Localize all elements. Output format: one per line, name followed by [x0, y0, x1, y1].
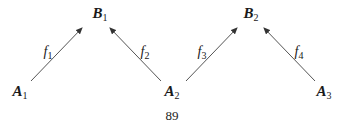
arrow-A2-to-B2 [186, 28, 237, 81]
arrow-A3-to-B2 [264, 28, 315, 81]
arrow-A1-to-B1 [31, 28, 82, 81]
edge-label-f1: f1 [44, 44, 53, 61]
page-number: 89 [166, 108, 179, 124]
node-B2: B2 [243, 5, 258, 23]
diagram-canvas: B1 B2 A1 A2 A3 f1 f2 f3 f4 89 [0, 0, 344, 131]
node-A2: A2 [164, 83, 179, 101]
edge-label-f2: f2 [141, 44, 150, 61]
edge-label-f4: f4 [295, 44, 304, 61]
node-A3: A3 [316, 83, 331, 101]
arrow-A2-to-B1 [110, 28, 161, 81]
node-A1: A1 [12, 83, 27, 101]
edge-label-f3: f3 [198, 44, 207, 61]
node-B1: B1 [92, 5, 107, 23]
